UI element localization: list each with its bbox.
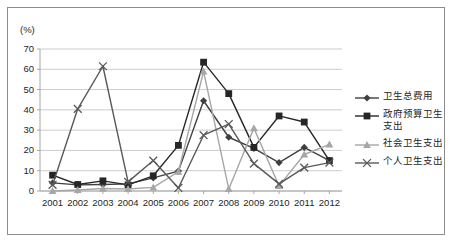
data-point-marker-square — [150, 172, 157, 179]
data-point-marker-square — [200, 59, 207, 66]
y-tick-label: 30 — [12, 124, 34, 135]
data-point-marker-cross — [74, 105, 82, 113]
data-point-marker-cross — [200, 131, 208, 139]
data-point-marker-square — [251, 144, 258, 151]
data-point-marker-square — [175, 142, 182, 149]
data-point-marker-triangle — [326, 140, 334, 147]
data-point-marker-triangle — [250, 124, 258, 131]
data-point-marker-cross — [149, 157, 157, 165]
data-point-marker-cross — [225, 120, 233, 128]
data-point-marker-square — [276, 113, 283, 120]
data-point-marker-triangle — [225, 185, 233, 192]
y-tick-label: 20 — [12, 144, 34, 155]
legend-marker-triangle-icon — [354, 137, 380, 149]
x-tick-label: 2012 — [314, 197, 344, 208]
data-point-marker-square — [225, 90, 232, 97]
chart-legend: 卫生总费用政府预算卫生支出社会卫生支出个人卫生支出 — [354, 90, 446, 173]
y-tick-label: 50 — [12, 84, 34, 95]
data-point-marker-square — [100, 177, 107, 184]
data-point-marker-diamond — [363, 94, 370, 101]
y-tick-label: 10 — [12, 165, 34, 176]
legend-item-personal-health-expenditure[interactable]: 个人卫生支出 — [354, 155, 446, 167]
data-point-marker-square — [301, 119, 308, 126]
chart-figure: (%) 010203040506070 20012002200320042005… — [7, 7, 445, 235]
data-point-marker-square — [364, 113, 371, 120]
legend-marker-cross-icon — [354, 155, 380, 167]
y-tick-label: 0 — [12, 185, 34, 196]
legend-label: 个人卫生支出 — [383, 155, 443, 167]
legend-item-social-health-expenditure[interactable]: 社会卫生支出 — [354, 137, 446, 149]
data-point-marker-cross — [250, 160, 258, 168]
data-point-marker-diamond — [275, 159, 282, 166]
y-tick-label: 60 — [12, 63, 34, 74]
legend-label: 卫生总费用 — [383, 90, 433, 102]
legend-label: 社会卫生支出 — [383, 137, 443, 149]
legend-marker-diamond-icon — [354, 90, 380, 102]
legend-label: 政府预算卫生支出 — [383, 108, 446, 131]
legend-item-government-budget-health-expenditure[interactable]: 政府预算卫生支出 — [354, 108, 446, 131]
legend-marker-square-icon — [354, 108, 380, 120]
legend-item-total-health-expenditure[interactable]: 卫生总费用 — [354, 90, 446, 102]
chart-series-diamond — [49, 97, 333, 188]
data-point-marker-diamond — [301, 144, 308, 151]
y-tick-label: 40 — [12, 104, 34, 115]
y-tick-label: 70 — [12, 43, 34, 54]
